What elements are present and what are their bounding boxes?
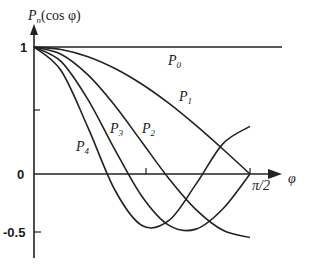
label-p2: P2 bbox=[141, 121, 156, 138]
y-tick-label-neg-half: -0.5 bbox=[3, 225, 25, 240]
y-axis-label: Pn(cos φ) bbox=[27, 8, 81, 25]
x-axis-label: φ bbox=[288, 171, 296, 186]
y-axis-arrow-icon bbox=[30, 24, 38, 35]
y-tick-label-zero: 0 bbox=[17, 167, 24, 182]
x-tick-label-pi-half: π/2 bbox=[252, 178, 270, 193]
label-p4: P4 bbox=[75, 139, 90, 156]
y-tick-label-one: 1 bbox=[20, 40, 27, 55]
curve-p1 bbox=[34, 47, 250, 174]
curve-p3 bbox=[34, 47, 250, 231]
label-p3: P3 bbox=[109, 121, 124, 138]
label-p1: P1 bbox=[178, 89, 192, 106]
curve-p4 bbox=[34, 47, 250, 228]
label-p0: P0 bbox=[167, 53, 182, 70]
legendre-chart: Pn(cos φ) φ 1 0 -0.5 π/2 P0 P1 P2 P3 P4 bbox=[0, 0, 317, 265]
x-axis-arrow-icon bbox=[268, 169, 282, 179]
curves-group bbox=[34, 47, 282, 238]
curve-p2 bbox=[34, 47, 250, 238]
